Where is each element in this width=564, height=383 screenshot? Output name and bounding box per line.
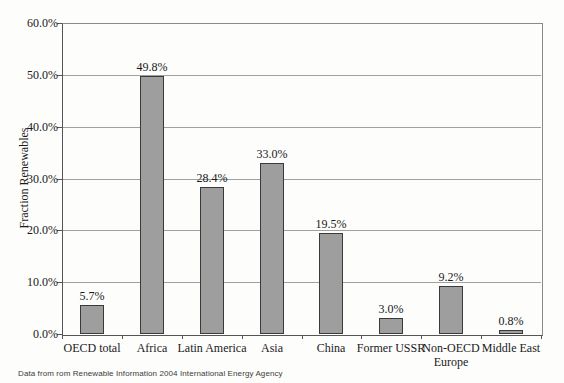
x-axis-tick	[421, 335, 422, 339]
x-axis-tick	[182, 335, 183, 339]
x-category-label: Middle East	[469, 341, 553, 355]
bar-value-label: 33.0%	[242, 147, 302, 161]
bar-value-label: 28.4%	[182, 171, 242, 185]
x-axis-tick	[481, 335, 482, 339]
bar-former-ussr	[379, 318, 403, 334]
y-tick-label: 40.0%	[14, 120, 58, 134]
source-note: Data from rom Renewable Information 2004…	[18, 369, 283, 379]
y-tick-label: 0.0%	[14, 327, 58, 341]
y-tick-label: 60.0%	[14, 16, 58, 30]
x-axis-tick	[62, 335, 63, 339]
y-tick-label: 10.0%	[14, 275, 58, 289]
x-axis-tick	[541, 335, 542, 339]
y-tick-label: 20.0%	[14, 223, 58, 237]
bar-value-label: 19.5%	[301, 217, 361, 231]
bar-africa	[140, 76, 164, 334]
x-axis-tick	[361, 335, 362, 339]
bar-value-label: 5.7%	[62, 289, 122, 303]
bar-value-label: 49.8%	[122, 60, 182, 74]
bar-china	[319, 233, 343, 334]
x-axis-tick	[302, 335, 303, 339]
y-tick-label: 50.0%	[14, 68, 58, 82]
bar-oecd-total	[80, 305, 104, 335]
x-axis-tick	[242, 335, 243, 339]
bar-value-label: 9.2%	[421, 270, 481, 284]
gridline	[63, 179, 541, 180]
bar-value-label: 0.8%	[481, 314, 541, 328]
y-tick-label: 30.0%	[14, 172, 58, 186]
gridline	[63, 127, 541, 128]
bar-latin-america	[200, 187, 224, 334]
bar-asia	[260, 163, 284, 334]
bar-middle-east	[499, 330, 523, 334]
bar-non-oecd-europe	[439, 286, 463, 334]
bar-value-label: 3.0%	[361, 302, 421, 316]
gridline	[63, 75, 541, 76]
chart-canvas: Fraction Renewables 0.0%10.0%20.0%30.0%4…	[0, 0, 564, 383]
x-axis-tick	[122, 335, 123, 339]
